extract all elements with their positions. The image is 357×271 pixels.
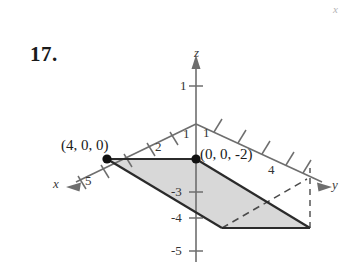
shaded-plane-region — [107, 159, 310, 228]
axis-label-x: x — [53, 177, 59, 190]
ghost-x-label: x — [333, 4, 338, 15]
tick-y-1 — [214, 119, 222, 132]
tick-y-3 — [262, 141, 270, 154]
tick-label-z-neg3: -3 — [171, 185, 182, 198]
tick-label-x-5: 5 — [85, 174, 92, 187]
figure-container: 17. (4, 0, 0) (0, 0, -2) x y z x 1 -3 -4… — [0, 0, 357, 271]
tick-label-y-4: 4 — [268, 163, 275, 176]
point-label-0-0-neg2: (0, 0, -2) — [200, 147, 253, 162]
tick-label-z-neg4: -4 — [171, 211, 182, 224]
tick-y-2 — [238, 130, 246, 143]
problem-number: 17. — [30, 44, 58, 65]
tick-label-z-1: 1 — [180, 79, 187, 92]
tick-label-y-1: 1 — [203, 126, 210, 139]
point-label-4-0-0: (4, 0, 0) — [61, 138, 109, 153]
axis-y-arrowhead — [317, 183, 332, 192]
tick-label-z-neg5: -5 — [171, 244, 182, 257]
tick-label-x-2: 2 — [155, 140, 162, 153]
tick-label-x-1: 1 — [183, 127, 190, 140]
point-marker-4-0-0 — [102, 154, 111, 163]
axis-label-y: y — [332, 178, 338, 191]
tick-y-4 — [286, 152, 294, 165]
axis-label-z: z — [194, 46, 199, 59]
coordinate-diagram — [0, 0, 357, 271]
axis-x-arrowhead — [66, 183, 81, 192]
